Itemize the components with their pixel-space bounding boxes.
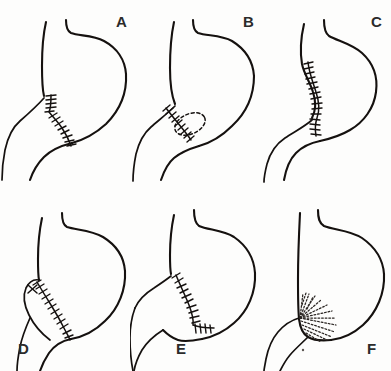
panel-f: F [258, 185, 391, 370]
panel-a-drawing [0, 0, 130, 185]
suture-ticks [172, 273, 211, 333]
duodenal-limb [2, 98, 44, 180]
duodenal-limb-outer [130, 308, 135, 371]
suture-ticks [45, 95, 76, 146]
esophagus-stub [170, 215, 174, 274]
panel-e-drawing [130, 185, 260, 371]
duodenal-bulb [135, 276, 171, 308]
antrum-lower-border [284, 141, 320, 180]
cardia-and-fundus [62, 213, 125, 271]
suture-line [49, 95, 71, 146]
lesser-curvature [298, 213, 300, 318]
greater-curvature [320, 92, 376, 141]
cardia-and-fundus [324, 20, 376, 92]
panel-label-c: C [371, 14, 382, 29]
greater-curvature [331, 274, 384, 340]
ink-speck [302, 349, 304, 351]
greater-curvature [72, 74, 126, 143]
esophagus-stub [38, 218, 42, 280]
greater-curvature [71, 271, 125, 339]
panel-d: D [0, 185, 130, 370]
duodenal-bulb [264, 318, 299, 371]
duodenal-limb [133, 106, 175, 181]
panel-c: C [258, 0, 391, 185]
greater-curvature [199, 76, 254, 146]
esophagus-stub [42, 22, 46, 96]
cardia-and-fundus [318, 210, 384, 274]
panel-b: B [130, 0, 260, 185]
figure-plate: A B [0, 0, 391, 371]
panel-e: E [130, 185, 260, 370]
panel-label-b: B [243, 14, 254, 29]
panel-a: A [0, 0, 130, 185]
esophagus-stub [170, 22, 175, 104]
antrum-lower-border [161, 146, 199, 180]
panel-label-d: D [18, 341, 29, 356]
duodenal-limb [264, 120, 312, 182]
antrum-lower-border [40, 339, 71, 371]
panel-label-f: F [367, 341, 377, 356]
duodenal-limb [280, 337, 308, 371]
panel-b-drawing [130, 0, 260, 185]
duodenal-limb [134, 330, 163, 371]
antrum-lower-border [30, 143, 72, 180]
panel-label-e: E [176, 341, 187, 356]
cardia-and-fundus [194, 210, 255, 273]
panel-label-a: A [116, 14, 127, 29]
suture-line [37, 282, 70, 340]
suture-line [176, 275, 214, 328]
